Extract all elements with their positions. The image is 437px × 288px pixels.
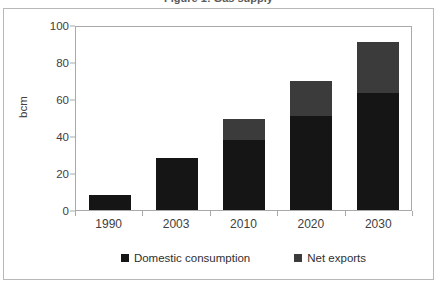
legend-label: Net exports [307, 252, 366, 264]
y-axis-tick-label: 0 [63, 205, 69, 217]
x-axis-tick-mark [277, 211, 278, 216]
bar-segment-net-exports[interactable] [223, 119, 265, 139]
legend-swatch-icon [121, 254, 129, 262]
x-axis-tick-label: 2010 [222, 217, 264, 231]
chart-figure: Figure 1: Gas supply bcm 100806040200 19… [0, 0, 437, 288]
y-axis-tick-label: 20 [56, 168, 69, 180]
y-axis-tick-label: 80 [56, 57, 69, 69]
x-axis-tick-mark [75, 211, 76, 216]
x-axis-tick-mark [345, 211, 346, 216]
chart-legend: Domestic consumptionNet exports [75, 252, 412, 264]
bar-segment-net-exports[interactable] [290, 81, 332, 116]
y-axis-tick-label: 100 [50, 20, 69, 32]
bar-group[interactable] [290, 27, 332, 210]
x-axis-tick-mark [412, 211, 413, 216]
bar-group[interactable] [89, 27, 131, 210]
x-axis-tick-label: 2030 [357, 217, 399, 231]
bar-segment-domestic-consumption[interactable] [357, 93, 399, 210]
cropped-title-text: Figure 1: Gas supply [164, 0, 273, 4]
bar-group[interactable] [156, 27, 198, 210]
bar-group[interactable] [223, 27, 265, 210]
bar-segment-domestic-consumption[interactable] [223, 140, 265, 210]
x-axis-tick-label: 2020 [290, 217, 332, 231]
x-axis-tick-mark [142, 211, 143, 216]
x-axis-tick-mark [210, 211, 211, 216]
y-axis-tick-label: 60 [56, 94, 69, 106]
bar-segment-domestic-consumption[interactable] [89, 195, 131, 210]
legend-swatch-icon [294, 254, 302, 262]
legend-item[interactable]: Net exports [294, 252, 366, 264]
x-axis-tick-label: 2003 [155, 217, 197, 231]
bar-segment-domestic-consumption[interactable] [156, 158, 198, 210]
x-axis-tick-label: 1990 [88, 217, 130, 231]
x-axis-labels: 19902003201020202030 [75, 217, 412, 231]
bar-series-container [76, 27, 411, 210]
y-axis: 100806040200 [36, 26, 75, 211]
plot-area [75, 26, 412, 211]
x-axis: 19902003201020202030 [75, 211, 412, 235]
y-axis-title: bcm [17, 96, 29, 118]
bar-group[interactable] [357, 27, 399, 210]
legend-label: Domestic consumption [134, 252, 250, 264]
legend-item[interactable]: Domestic consumption [121, 252, 250, 264]
bar-segment-net-exports[interactable] [357, 42, 399, 94]
cropped-title-remnant: Figure 1: Gas supply [0, 0, 437, 7]
y-axis-tick-label: 40 [56, 131, 69, 143]
bar-segment-domestic-consumption[interactable] [290, 116, 332, 210]
